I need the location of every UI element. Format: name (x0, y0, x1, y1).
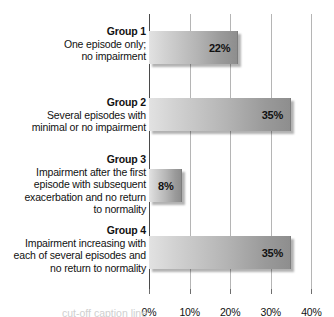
bar-fill: 8% (149, 169, 182, 202)
tick-mark-40 (311, 289, 312, 294)
bar-fill: 35% (149, 98, 291, 131)
category-label-group-1: Group 1 One episode only; no impairment (4, 25, 146, 63)
bar-fill: 35% (149, 236, 291, 269)
category-description-line: Several episodes with (4, 109, 146, 122)
category-label-group-4: Group 4 Impairment increasing with each … (4, 224, 146, 274)
bar-chart: Group 1 One episode only; no impairment … (0, 0, 334, 317)
category-description-line: episode with subsequent (4, 178, 146, 191)
category-description-line: Impairment after the first (4, 166, 146, 179)
category-title: Group 3 (4, 153, 146, 166)
bar-fill: 22% (149, 31, 238, 64)
tick-mark-0 (149, 289, 150, 294)
category-description-line: each of several episodes and (4, 249, 146, 262)
plot-area: 22% 35% 8% 35% 0% 10% 20% (149, 14, 312, 289)
bar-group-4: 35% (149, 236, 291, 269)
bar-group-2: 35% (149, 98, 291, 131)
bar-group-1: 22% (149, 31, 238, 64)
tick-mark-30 (271, 289, 272, 294)
category-description-line: exacerbation and no return (4, 191, 146, 204)
bar-value-label: 22% (209, 42, 230, 54)
bar-value-label: 8% (158, 180, 174, 192)
category-title: Group 1 (4, 25, 146, 38)
tick-mark-20 (230, 289, 231, 294)
category-label-group-3: Group 3 Impairment after the first episo… (4, 153, 146, 216)
category-description-line: to normality (4, 203, 146, 216)
category-title: Group 4 (4, 224, 146, 237)
category-title: Group 2 (4, 96, 146, 109)
bar-value-label: 35% (262, 247, 283, 259)
bar-value-label: 35% (262, 109, 283, 121)
gridline-40 (311, 14, 312, 289)
caption-text: cut-off caption line (62, 309, 147, 317)
category-description-line: One episode only; (4, 38, 146, 51)
category-description-line: no return to normality (4, 262, 146, 275)
category-description-line: no impairment (4, 50, 146, 63)
category-description-line: Impairment increasing with (4, 237, 146, 250)
category-description-line: minimal or no impairment (4, 121, 146, 134)
clipped-caption: cut-off caption line (0, 309, 334, 317)
tick-mark-10 (190, 289, 191, 294)
category-label-group-2: Group 2 Several episodes with minimal or… (4, 96, 146, 134)
bar-group-3: 8% (149, 169, 182, 202)
